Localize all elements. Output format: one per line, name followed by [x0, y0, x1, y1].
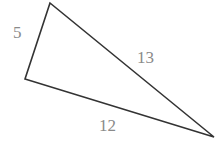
side-label-hypotenuse: 13: [137, 48, 154, 67]
side-label-short-leg: 5: [13, 23, 22, 42]
side-label-long-leg: 12: [99, 116, 116, 135]
triangle-diagram: 5 13 12: [0, 0, 223, 154]
triangle-shape: [25, 3, 214, 137]
